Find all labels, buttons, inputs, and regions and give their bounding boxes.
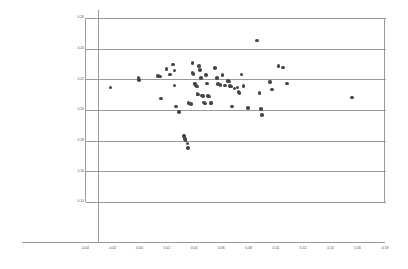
- data-point: [213, 66, 217, 70]
- y-tick-label: 0.14: [44, 200, 84, 203]
- y-axis-labels: 0.260.240.220.200.180.160.14: [40, 18, 84, 202]
- data-point: [198, 68, 202, 72]
- data-point: [173, 84, 177, 88]
- data-point: [191, 61, 195, 65]
- data-point: [255, 39, 259, 43]
- data-point: [158, 75, 162, 79]
- y-axis-line: [98, 10, 99, 242]
- x-axis-labels: -0.04-0.020.000.020.040.060.080.100.120.…: [0, 246, 408, 260]
- data-point: [168, 73, 172, 77]
- data-point: [246, 106, 250, 110]
- data-point: [186, 142, 190, 146]
- data-point: [173, 69, 177, 73]
- data-point: [285, 82, 289, 86]
- data-point: [223, 84, 227, 88]
- data-point: [196, 93, 200, 97]
- data-point: [268, 80, 272, 84]
- x-axis-line: [22, 242, 385, 243]
- data-point: [192, 72, 196, 76]
- data-point: [159, 97, 163, 101]
- data-point: [195, 85, 199, 89]
- data-point: [165, 67, 169, 71]
- data-point: [215, 76, 219, 80]
- data-point: [238, 91, 242, 95]
- data-point: [186, 146, 190, 150]
- data-point: [199, 76, 203, 80]
- data-point: [230, 105, 234, 109]
- data-point: [270, 88, 274, 92]
- data-point: [281, 66, 285, 70]
- data-point: [277, 64, 281, 68]
- data-point: [208, 95, 212, 99]
- data-point: [189, 102, 193, 106]
- data-point: [203, 102, 207, 106]
- data-point: [201, 94, 205, 98]
- data-point: [177, 110, 181, 114]
- data-point: [259, 107, 263, 111]
- data-point: [236, 86, 240, 90]
- data-point: [109, 86, 113, 90]
- y-tick-label: 0.20: [44, 108, 84, 111]
- data-point: [242, 84, 246, 88]
- y-tick-label: 0.22: [44, 78, 84, 81]
- data-point: [350, 96, 354, 100]
- y-tick-label: 0.16: [44, 170, 84, 173]
- x-tick-label: 0.18: [365, 246, 405, 250]
- data-point: [219, 83, 223, 87]
- data-point: [221, 73, 225, 77]
- data-points-layer: [86, 18, 386, 202]
- scatter-chart: 0.260.240.220.200.180.160.14 -0.04-0.020…: [0, 0, 408, 269]
- data-point: [137, 78, 141, 82]
- gridline-y: [86, 202, 386, 203]
- data-point: [210, 101, 214, 105]
- data-point: [260, 113, 264, 117]
- plot-area: [85, 18, 385, 202]
- data-point: [227, 80, 231, 84]
- data-point: [240, 73, 244, 77]
- data-point: [174, 105, 178, 109]
- data-point: [205, 82, 209, 86]
- y-tick-label: 0.24: [44, 47, 84, 50]
- y-tick-label: 0.26: [44, 16, 84, 19]
- data-point: [171, 63, 175, 67]
- data-point: [258, 91, 262, 95]
- y-tick-label: 0.18: [44, 139, 84, 142]
- data-point: [204, 73, 208, 77]
